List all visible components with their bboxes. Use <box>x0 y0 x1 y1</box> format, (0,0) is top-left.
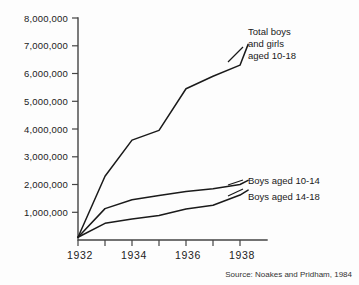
x-axis-tick-labels: 1932 1934 1936 1938 <box>67 249 255 261</box>
annotation-line: Total boys <box>248 26 291 37</box>
x-tick-label: 1934 <box>121 249 147 261</box>
y-tick-label: 3,000,000 <box>24 151 68 162</box>
y-axis-tick-labels: 8,000,000 7,000,000 6,000,000 5,000,000 … <box>24 13 68 218</box>
leader-line-total <box>228 47 243 62</box>
annotation-boys-aged-10-14: Boys aged 10-14 <box>248 175 320 186</box>
annotation-line: aged 10-18 <box>248 50 296 61</box>
series-line-boys-aged-10-14 <box>78 180 248 237</box>
y-tick-label: 2,000,000 <box>24 179 68 190</box>
y-tick-label: 8,000,000 <box>24 13 68 24</box>
chart-page: 8,000,000 7,000,000 6,000,000 5,000,000 … <box>0 0 359 285</box>
line-chart: 8,000,000 7,000,000 6,000,000 5,000,000 … <box>0 0 359 285</box>
y-tick-label: 7,000,000 <box>24 40 68 51</box>
y-tick-label: 1,000,000 <box>24 207 68 218</box>
source-caption: Source: Noakes and Pridham, 1984 <box>225 270 352 279</box>
y-tick-label: 6,000,000 <box>24 68 68 79</box>
x-axis-ticks <box>78 240 240 246</box>
series-line-total-boys-and-girls-aged-10-18 <box>78 44 248 237</box>
annotation-line: and girls <box>248 38 284 49</box>
annotation-line: Boys aged 10-14 <box>248 175 320 186</box>
x-tick-label: 1938 <box>229 249 255 261</box>
y-tick-label: 4,000,000 <box>24 124 68 135</box>
series-line-boys-aged-14-18 <box>78 190 248 237</box>
chart-series-group <box>78 44 248 237</box>
x-tick-label: 1932 <box>67 249 93 261</box>
annotation-line: Boys aged 14-18 <box>248 191 320 202</box>
x-tick-label: 1936 <box>175 249 201 261</box>
annotation-total-boys-and-girls: Total boys and girls aged 10-18 <box>248 26 296 61</box>
y-axis-ticks <box>72 18 78 212</box>
y-tick-label: 5,000,000 <box>24 96 68 107</box>
annotation-boys-aged-14-18: Boys aged 14-18 <box>248 191 320 202</box>
